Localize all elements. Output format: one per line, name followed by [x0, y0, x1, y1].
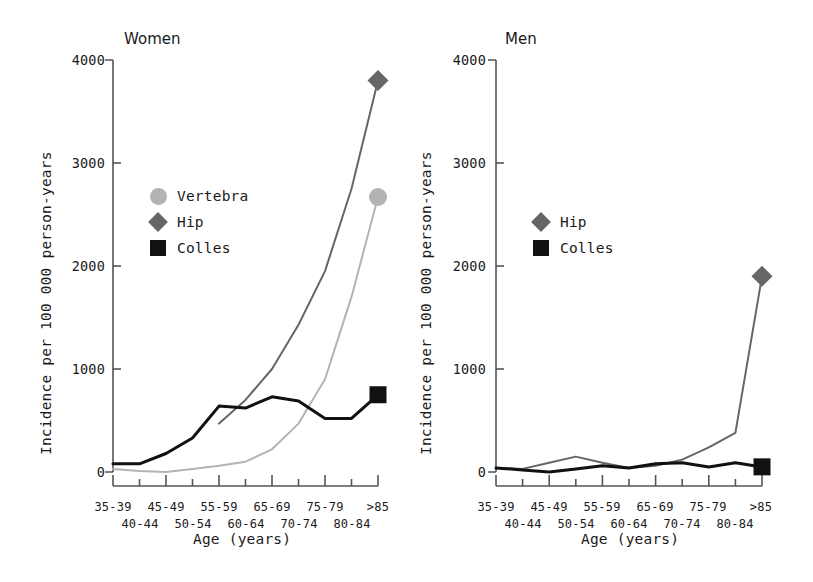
plot-area-men — [393, 0, 813, 582]
panel-men: Men Incidence per 100 000 person-years 4… — [393, 0, 813, 582]
fracture-incidence-figure: Women Incidence per 100 000 person-years… — [0, 0, 813, 582]
plot-area-women — [0, 0, 420, 582]
panel-women: Women Incidence per 100 000 person-years… — [0, 0, 420, 582]
